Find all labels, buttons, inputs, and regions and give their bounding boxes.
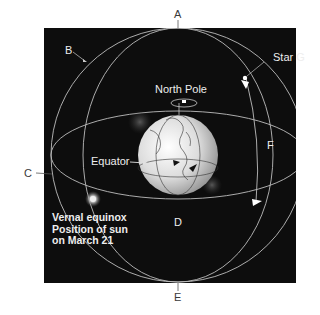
- star-g: [243, 76, 247, 80]
- vernal-equinox-caption: Vernal equinox Position of sun on March …: [52, 212, 128, 247]
- vernal-line-1: Vernal equinox: [52, 212, 128, 224]
- label-f: F: [267, 140, 274, 151]
- label-e: E: [174, 292, 181, 303]
- label-star-g: Star G: [273, 52, 305, 63]
- label-c: C: [24, 168, 32, 179]
- celestial-sphere-graphic: [0, 0, 320, 315]
- label-equator: Equator: [91, 156, 130, 167]
- celestial-sphere-diagram: A E C B F D Star G North Pole Equator Ve…: [0, 0, 320, 315]
- label-b: B: [65, 45, 72, 56]
- label-a: A: [174, 9, 181, 20]
- vernal-line-3: on March 21: [52, 235, 128, 247]
- label-north-pole: North Pole: [155, 84, 207, 95]
- earth-globe: [138, 115, 218, 195]
- label-d: D: [174, 217, 182, 228]
